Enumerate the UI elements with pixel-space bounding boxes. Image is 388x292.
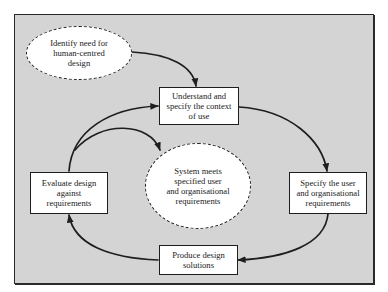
- node-understand-context-label: Understand and specify the context of us…: [167, 91, 232, 121]
- edge-evaluate-to-understand: [69, 106, 158, 171]
- node-system-meets: System meets specified user and organisa…: [145, 143, 251, 229]
- node-produce-design-label: Produce design solutions: [172, 250, 225, 270]
- node-identify-need: Identify need for human-centred design: [26, 26, 132, 80]
- node-specify-requirements-label: Specify the user and organisational requ…: [296, 178, 359, 208]
- node-understand-context: Understand and specify the context of us…: [159, 87, 239, 125]
- node-specify-requirements: Specify the user and organisational requ…: [289, 172, 367, 214]
- node-identify-need-label: Identify need for human-centred design: [50, 38, 108, 68]
- node-evaluate-design-label: Evaluate design against requirements: [42, 178, 97, 208]
- node-produce-design: Produce design solutions: [159, 245, 238, 275]
- edge-produce-to-evaluate: [69, 215, 158, 260]
- node-evaluate-design: Evaluate design against requirements: [30, 172, 108, 214]
- edge-specify-to-produce: [238, 214, 328, 260]
- edge-identify-to-understand: [132, 52, 196, 86]
- node-system-meets-label: System meets specified user and organisa…: [166, 166, 229, 206]
- edge-understand-to-specify: [239, 107, 327, 171]
